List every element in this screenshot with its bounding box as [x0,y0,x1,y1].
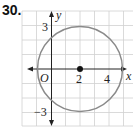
origin-label: O [40,71,49,85]
y-axis-label: y [55,8,62,22]
x-tick-4: 4 [104,72,110,86]
x-axis-left-arrow-icon [27,67,33,72]
circle-graph: y x O 2 4 3 −3 [0,0,133,128]
y-axis-down-arrow-icon [49,120,54,126]
y-axis-up-arrow-icon [49,11,54,17]
y-tick-neg3: −3 [34,105,47,119]
x-tick-2: 2 [76,72,82,86]
y-tick-3: 3 [42,20,48,34]
x-axis-label: x [125,69,132,83]
